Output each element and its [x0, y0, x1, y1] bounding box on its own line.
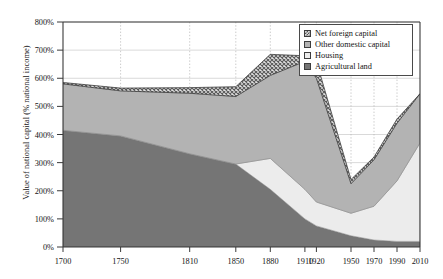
- x-tick-label-1970: 1970: [366, 257, 383, 266]
- agricultural-swatch-icon: [304, 63, 311, 70]
- y-tick-label-200: 200%: [10, 186, 54, 195]
- x-tick-label-1950: 1950: [343, 257, 360, 266]
- x-tick-label-1810: 1810: [181, 257, 198, 266]
- cross-hatch-swatch-icon: [304, 30, 311, 37]
- chart-figure: Value of national capital (% national in…: [0, 0, 443, 279]
- x-tick-label-1700: 1700: [55, 257, 72, 266]
- legend-item-net-foreign-capital: Net foreign capital: [304, 28, 408, 39]
- x-tick-label-1920: 1920: [308, 257, 325, 266]
- x-axis-ticks: [63, 247, 420, 252]
- x-tick-label-1990: 1990: [389, 257, 406, 266]
- y-tick-label-100: 100%: [10, 214, 54, 223]
- x-tick-label-1880: 1880: [262, 257, 279, 266]
- chart-legend: Net foreign capital Other domestic capit…: [299, 24, 413, 76]
- y-tick-label-400: 400%: [10, 130, 54, 139]
- legend-label-net-foreign-capital: Net foreign capital: [315, 28, 377, 39]
- legend-item-housing: Housing: [304, 50, 408, 61]
- x-tick-label-2010: 2010: [412, 257, 429, 266]
- legend-label-housing: Housing: [315, 50, 343, 61]
- legend-label-other-domestic-capital: Other domestic capital: [315, 39, 390, 50]
- y-tick-label-600: 600%: [10, 74, 54, 83]
- y-tick-label-800: 800%: [10, 18, 54, 27]
- legend-label-agricultural-land: Agricultural land: [315, 61, 372, 72]
- y-axis-ticks: [57, 22, 63, 247]
- y-tick-label-300: 300%: [10, 158, 54, 167]
- y-tick-label-0: 0%: [10, 243, 54, 252]
- legend-item-agricultural-land: Agricultural land: [304, 61, 408, 72]
- housing-swatch-icon: [304, 52, 311, 59]
- y-tick-label-700: 700%: [10, 46, 54, 55]
- x-tick-label-1750: 1750: [112, 257, 129, 266]
- y-tick-label-500: 500%: [10, 102, 54, 111]
- x-tick-label-1850: 1850: [228, 257, 245, 266]
- other-domestic-swatch-icon: [304, 41, 311, 48]
- legend-item-other-domestic-capital: Other domestic capital: [304, 39, 408, 50]
